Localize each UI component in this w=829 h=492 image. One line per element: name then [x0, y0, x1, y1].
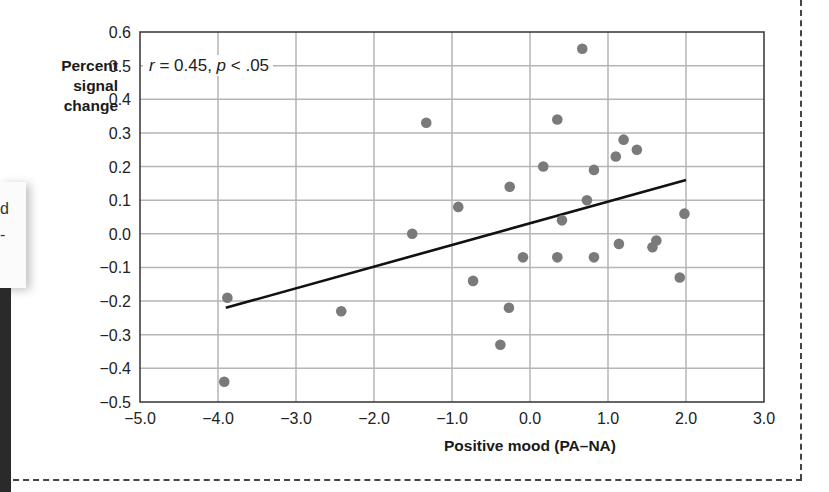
data-point: [421, 118, 432, 129]
y-tick-label: 0.5: [109, 58, 131, 75]
data-point: [504, 303, 515, 314]
x-tick-label: −4.0: [202, 410, 234, 427]
r-value: = 0.45,: [155, 56, 217, 75]
data-point: [611, 151, 622, 162]
p-symbol: p: [217, 56, 226, 75]
data-point: [336, 306, 347, 317]
y-tick-label: −0.4: [99, 360, 131, 377]
y-tick-label: 0.4: [109, 91, 131, 108]
data-point: [582, 195, 593, 206]
y-tick-labels: 0.60.50.40.30.20.10.0−0.1−0.2−0.3−0.4−0.…: [99, 24, 131, 411]
y-tick-label: −0.5: [99, 394, 131, 411]
data-point: [552, 252, 563, 263]
y-tick-label: 0.1: [109, 192, 131, 209]
x-tick-label: 3.0: [753, 410, 775, 427]
data-point: [614, 239, 625, 250]
data-point: [589, 165, 600, 176]
data-points: [219, 44, 690, 388]
y-tick-label: 0.0: [109, 226, 131, 243]
x-tick-label: 2.0: [675, 410, 697, 427]
y-tick-label: −0.1: [99, 259, 131, 276]
data-point: [407, 229, 418, 240]
data-point: [219, 377, 230, 388]
data-point: [632, 144, 643, 155]
y-tick-label: 0.6: [109, 24, 131, 41]
x-tick-label: −5.0: [124, 410, 156, 427]
x-tick-label: −3.0: [280, 410, 312, 427]
x-tick-label: 0.0: [519, 410, 541, 427]
data-point: [679, 208, 690, 219]
data-point: [453, 202, 464, 213]
data-point: [518, 252, 529, 263]
data-point: [538, 161, 549, 172]
data-point: [674, 272, 685, 283]
data-point: [552, 114, 563, 125]
data-point: [618, 134, 629, 145]
x-tick-labels: −5.0−4.0−3.0−2.0−1.00.01.02.03.0: [124, 410, 775, 427]
grid-lines: [140, 32, 764, 402]
data-point: [651, 235, 662, 246]
x-tick-label: 1.0: [597, 410, 619, 427]
data-point: [495, 340, 506, 351]
data-point: [589, 252, 600, 263]
y-tick-label: 0.3: [109, 125, 131, 142]
y-tick-label: 0.2: [109, 159, 131, 176]
y-tick-label: −0.3: [99, 327, 131, 344]
y-tick-label: −0.2: [99, 293, 131, 310]
x-tick-label: −2.0: [358, 410, 390, 427]
correlation-annotation: r = 0.45, p < .05: [143, 55, 273, 76]
scatter-plot: 0.60.50.40.30.20.10.0−0.1−0.2−0.3−0.4−0.…: [0, 0, 829, 492]
p-value: < .05: [226, 56, 269, 75]
x-tick-label: −1.0: [436, 410, 468, 427]
data-point: [468, 276, 479, 287]
x-axis-label: Positive mood (PA–NA): [290, 437, 770, 455]
data-point: [504, 181, 515, 192]
data-point: [557, 215, 568, 226]
data-point: [222, 292, 233, 303]
data-point: [577, 44, 588, 55]
